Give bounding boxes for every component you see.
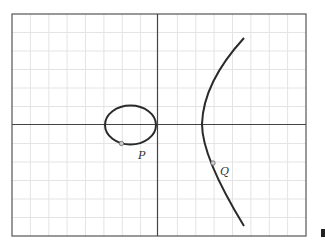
curve-branch <box>202 38 244 226</box>
edge-mark <box>321 229 325 237</box>
point-q-label: Q <box>220 165 229 178</box>
point-q <box>211 161 215 165</box>
point-p <box>119 141 123 145</box>
point-p-label: P <box>137 149 146 162</box>
elliptic-curve-diagram: P Q <box>0 0 325 248</box>
